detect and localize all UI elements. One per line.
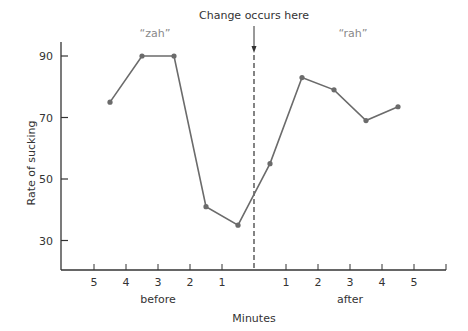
data-point [171, 53, 176, 58]
y-tick-label: 90 [39, 50, 53, 63]
x-tick-label: 3 [155, 276, 162, 289]
x-tick-label: 1 [219, 276, 226, 289]
y-tick-label: 70 [39, 112, 53, 125]
before-group-label: before [140, 293, 176, 306]
x-tick-label: 5 [411, 276, 418, 289]
x-tick-label: 3 [347, 276, 354, 289]
data-point [235, 223, 240, 228]
line-chart: 30507090 5432112345 Rate of sucking Minu… [0, 0, 468, 331]
phase-label-rah: “rah” [338, 27, 367, 40]
data-point [363, 118, 368, 123]
arrow-down-icon [252, 46, 257, 53]
data-point [139, 53, 144, 58]
y-axis-ticks: 30507090 [39, 50, 68, 248]
y-axis-label: Rate of sucking [25, 121, 38, 206]
y-tick-label: 30 [39, 235, 53, 248]
data-point [331, 87, 336, 92]
change-annotation: Change occurs here [199, 9, 309, 22]
x-tick-label: 1 [283, 276, 290, 289]
x-tick-label: 2 [187, 276, 194, 289]
data-point [267, 161, 272, 166]
x-tick-label: 5 [91, 276, 98, 289]
phase-label-zah: “zah” [140, 27, 171, 40]
x-tick-label: 2 [315, 276, 322, 289]
x-tick-label: 4 [123, 276, 130, 289]
data-point [107, 100, 112, 105]
data-point [395, 104, 400, 109]
chart: 30507090 5432112345 Rate of sucking Minu… [0, 0, 468, 331]
change-divider-line [252, 26, 257, 270]
x-tick-label: 4 [379, 276, 386, 289]
data-point [203, 204, 208, 209]
x-axis-label: Minutes [232, 312, 276, 325]
after-group-label: after [337, 293, 364, 306]
y-tick-label: 50 [39, 173, 53, 186]
data-point [299, 75, 304, 80]
